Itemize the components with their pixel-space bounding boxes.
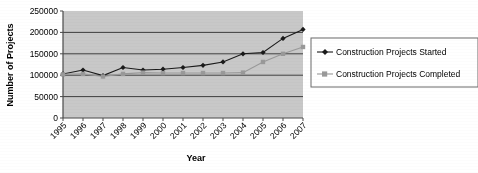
legend-item[interactable]: Construction Projects Completed: [317, 69, 461, 79]
y-tick-label: 200000: [30, 27, 59, 37]
plot-area: [63, 11, 303, 118]
square-marker: [81, 72, 85, 76]
square-marker: [322, 71, 327, 76]
square-marker: [301, 45, 305, 49]
x-axis-title: Year: [186, 153, 206, 163]
square-marker: [181, 71, 185, 75]
square-marker: [141, 70, 145, 74]
y-axis-title: Number of Projects: [5, 23, 15, 106]
square-marker: [281, 52, 285, 56]
square-marker: [101, 74, 105, 78]
y-tick-label: 250000: [30, 6, 59, 16]
square-marker: [121, 72, 125, 76]
square-marker: [221, 71, 225, 75]
y-tick-label: 150000: [30, 49, 59, 59]
y-tick-label: 100000: [30, 70, 59, 80]
legend-box: [311, 38, 478, 87]
square-marker: [261, 60, 265, 64]
chart-canvas: Number of Projects 050000100000150000200…: [0, 0, 478, 173]
y-tick-label: 50000: [34, 92, 58, 102]
line-chart: Number of Projects 050000100000150000200…: [0, 0, 478, 173]
y-tick-label: 0: [53, 113, 58, 123]
legend-label: Construction Projects Completed: [336, 69, 461, 79]
legend-item[interactable]: Construction Projects Started: [317, 47, 447, 57]
square-marker: [241, 70, 245, 74]
square-marker: [61, 72, 65, 76]
legend-label: Construction Projects Started: [336, 47, 447, 57]
square-marker: [201, 71, 205, 75]
square-marker: [161, 71, 165, 75]
